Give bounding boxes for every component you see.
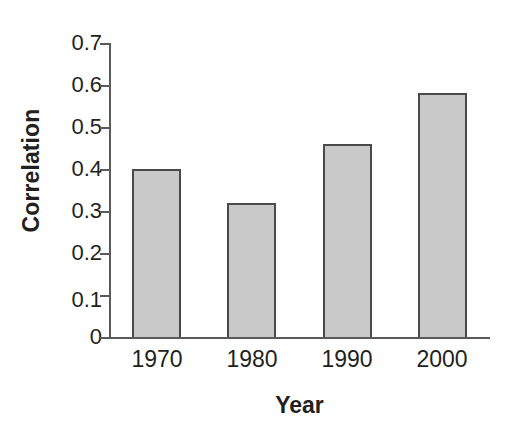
x-axis-line: [109, 337, 490, 339]
bar-1980: [227, 203, 276, 337]
y-tick-label: 0.6: [44, 74, 102, 96]
bar-chart: Correlation 0.7 0.6 0.5 0.4 0.3 0.2 0.1 …: [0, 0, 513, 440]
bar-2000: [418, 93, 467, 337]
x-axis-title: Year: [109, 392, 490, 419]
y-axis-tick-labels: 0.7 0.6 0.5 0.4 0.3 0.2 0.1 0: [44, 0, 102, 440]
bar-1970: [132, 169, 181, 337]
y-tick-label: 0.3: [44, 200, 102, 222]
y-tick-label: 0.5: [44, 116, 102, 138]
y-axis-title-text: Correlation: [19, 108, 46, 232]
y-axis-line: [109, 43, 111, 339]
y-tick-label: 0.7: [44, 32, 102, 54]
y-tick-label: 0: [44, 326, 102, 348]
y-tick-label: 0.1: [44, 289, 102, 311]
y-tick-label: 0.4: [44, 158, 102, 180]
bar-1990: [323, 144, 372, 337]
x-tick-label: 2000: [382, 345, 502, 373]
y-tick-label: 0.2: [44, 242, 102, 264]
